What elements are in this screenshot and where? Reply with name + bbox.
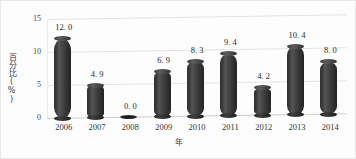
x-tick-label-2014: 2014 [313,123,347,132]
bar-cylinder [187,61,204,116]
bar-value-label: 4. 9 [78,70,116,79]
bar-value-label: 10. 4 [278,31,316,40]
x-tick-label-2010: 2010 [180,123,214,132]
bar-cap-bottom [187,114,204,119]
bar-2006: 12. 0 [49,19,79,118]
bar-2008: 0. 0 [115,18,145,117]
bar-cap-bottom [287,112,304,117]
bar-series: 12. 04. 90. 06. 98. 39. 44. 210. 48. 0 [47,19,347,118]
x-tick-label-2009: 2009 [147,123,181,132]
y-axis-ticks: 051015 [15,1,41,159]
bar-2009: 6. 9 [149,18,179,117]
bar-value-label: 8. 0 [311,46,349,55]
y-tick-label: 0 [19,114,41,122]
x-tick-label-2011: 2011 [213,123,247,132]
bar-cap-top [87,83,104,88]
bar-chart: 百分比(%) 051015 12. 04. 90. 06. 98. 39. 44… [0,0,356,159]
y-tick-label: 15 [19,15,41,23]
bar-cap-bottom [154,114,171,119]
bar-cap-top [220,51,237,56]
bar-2013: 10. 4 [282,16,312,115]
bar-2012: 4. 2 [249,16,279,115]
x-axis-title: 年 [1,139,356,147]
bar-cylinder [220,54,237,116]
bar-value-label: 8. 3 [178,46,216,55]
bar-cap-top [254,85,271,90]
x-axis-ticks: 200620072008200920102011201220132014 [47,123,347,137]
y-tick-label: 5 [19,81,41,89]
bar-cap-bottom [87,115,104,120]
bar-value-label: 0. 0 [111,102,149,111]
bar-value-label: 9. 4 [211,38,249,47]
bar-cap-bottom [254,113,271,118]
x-tick-label-2008: 2008 [113,123,147,132]
bar-cylinder [320,62,337,115]
bar-cylinder [154,71,171,117]
bar-value-label: 12. 0 [45,23,83,32]
x-tick-label-2007: 2007 [80,123,114,132]
plot-area: 12. 04. 90. 06. 98. 39. 44. 210. 48. 0 [47,19,347,118]
x-tick-label-2006: 2006 [47,123,81,132]
y-tick-label: 10 [19,48,41,56]
bar-cap-top [120,115,137,119]
bar-cap-bottom [320,112,337,117]
bar-cylinder [254,88,271,116]
bar-2014: 8. 0 [315,15,345,114]
bar-2011: 9. 4 [215,17,245,116]
bar-cylinder [287,46,304,115]
x-tick-label-2013: 2013 [280,123,314,132]
bar-cap-top [187,59,204,64]
bar-2010: 8. 3 [182,17,212,116]
bar-cap-top [54,36,71,41]
x-tick-label-2012: 2012 [247,123,281,132]
bar-cap-top [320,59,337,64]
bar-value-label: 4. 2 [245,72,283,81]
bar-cap-top [154,69,171,74]
bar-cylinder [54,39,71,118]
bar-value-label: 6. 9 [145,56,183,65]
bar-cylinder [87,85,104,117]
bar-cap-bottom [220,113,237,118]
bar-cap-bottom [54,116,71,121]
bar-cap-top [287,44,304,49]
bar-2007: 4. 9 [82,19,112,118]
